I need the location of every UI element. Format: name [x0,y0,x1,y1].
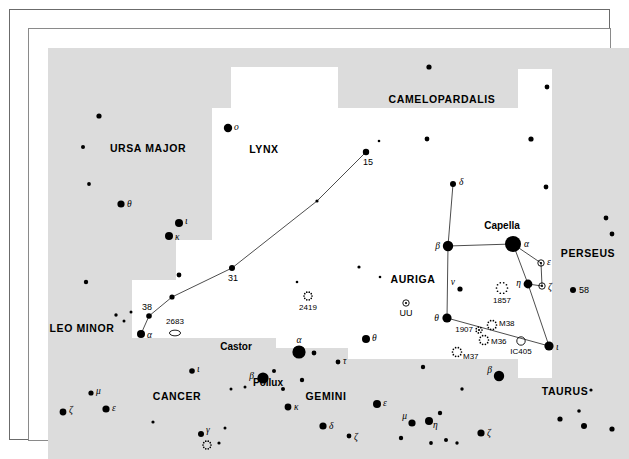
star-per-p2 [610,232,615,237]
star-cnc-c3 [230,388,233,391]
star-gem-g3 [429,441,433,445]
star-cnc-ga [198,431,204,437]
cluster-dot [496,287,498,289]
cluster-dot [455,347,457,349]
proper-name-capella: Capella [484,220,520,231]
cluster-dot [453,354,455,356]
star-uma-a3 [87,182,91,186]
star-cam-b3 [425,137,430,142]
star-lyn-m2 [169,294,174,299]
cluster-dot [475,328,477,330]
star-aur-be [443,241,453,251]
cluster-dot [503,292,505,294]
cluster-dot [202,444,204,446]
star-uma-a1 [96,113,101,118]
star-label-aur-be: β [434,241,440,251]
star-cam-b5 [544,185,549,190]
star-gem-g7 [421,365,425,369]
deepsky-label-ngc2683: 2683 [166,317,184,326]
cluster-dot [303,295,305,297]
star-uma-ka [165,232,173,240]
star-lmi-c2 [123,320,126,323]
star-aur-et [524,280,533,289]
star-label-aur-uu: UU [400,308,413,318]
cluster-dot [480,342,482,344]
cluster-dot [477,332,479,334]
star-tau-ze [477,429,484,436]
cluster-dot [487,324,489,326]
constellation-name-leo minor: LEO MINOR [50,322,115,334]
star-label-gem-th: θ [372,333,377,343]
star-tau-t2 [581,423,587,429]
cluster-dot [207,440,209,442]
cluster-dot [209,442,211,444]
star-lyn-x1 [378,140,381,143]
deepsky-label-m36: M36 [491,337,507,346]
cluster-dot [493,328,495,330]
constellation-name-cancer: CANCER [153,390,202,402]
cluster-dot [482,335,484,337]
cluster-dot [495,327,497,329]
star-gem-ka [285,404,292,411]
deepsky-label-m38: M38 [499,319,515,328]
cluster-dot [487,337,489,339]
variable-star-core-aur-ep [540,262,542,264]
deepsky-label-ngc1907: 1907 [455,325,473,334]
cluster-dot [488,327,490,329]
cluster-dot [205,448,207,450]
star-lyn-d2 [357,265,360,268]
star-label-per-58: 58 [579,285,589,295]
star-gem-de [319,422,326,429]
cluster-dot [497,290,499,292]
cluster-dot [304,293,306,295]
star-gem-et [425,417,433,425]
sky-svg-canvas: 2419268318571907M38M36M37IC405oθικ153138… [48,48,629,459]
cluster-dot [481,329,483,331]
cluster-dot [499,282,501,284]
star-label-aur-io: ι [556,342,559,352]
star-uma-a2 [81,145,85,149]
star-aur-de [450,181,456,187]
cluster-dot [475,330,477,332]
cluster-dot [203,442,205,444]
star-gem-ze [347,434,352,439]
star-gem-ta [336,360,341,365]
cluster-dot [490,320,492,322]
cluster-dot [310,293,312,295]
star-lmi-c1 [114,313,117,316]
star-uma-io [175,219,183,227]
cluster-dot [477,326,479,328]
cluster-dot [487,342,489,344]
cluster-dot [493,320,495,322]
star-tau-t3 [577,409,581,413]
star-label-gem-de: δ [329,421,334,431]
star-tau-t4 [609,426,614,431]
star-gem-b2 [272,369,276,373]
star-label-cnc-ep: ε [112,403,116,413]
star-lyn-al [137,330,145,338]
star-lyn-d3 [379,276,382,279]
cluster-dot [479,339,481,341]
cluster-dot [506,290,508,292]
star-cam-b4 [528,136,533,141]
star-cnc-ep [102,405,109,412]
star-label-uma-io: ι [185,216,188,226]
star-tau-t1 [557,416,562,421]
star-label-cnc-mu: μ [95,386,101,396]
cluster-dot [458,347,460,349]
cluster-dot [455,355,457,357]
star-cnc-io [189,368,195,374]
star-gem-g1 [438,411,442,415]
star-per-p1 [604,216,609,221]
constellation-name-gemini: GEMINI [306,390,347,402]
star-uma-a4 [177,273,182,278]
proper-name-pollux: Pollux [253,377,283,388]
star-gem-mu [408,419,415,426]
chart-inner-frame: 2419268318571907M38M36M37IC405oθικ153138… [28,28,611,441]
star-gem-ep [373,400,381,408]
star-gem-g5 [244,386,247,389]
constellation-name-lynx: LYNX [249,143,278,155]
cluster-dot [488,339,490,341]
star-gem-al [292,345,305,358]
cluster-dot [306,291,308,293]
